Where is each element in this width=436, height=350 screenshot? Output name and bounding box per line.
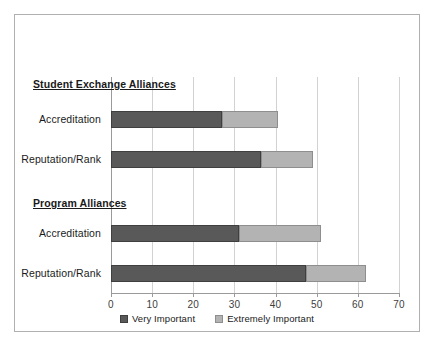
x-tick-label-0: 0 xyxy=(91,299,131,310)
gridline-50 xyxy=(317,77,318,293)
bar-segment-extremely-important[interactable] xyxy=(239,225,321,242)
bar-row[interactable] xyxy=(15,111,419,128)
x-tick-label-40: 40 xyxy=(256,299,296,310)
legend-swatch-icon-extremely-important xyxy=(215,315,223,323)
chart-frame: 010203040506070 Student Exchange Allianc… xyxy=(14,14,420,332)
bar-segment-very-important[interactable] xyxy=(111,151,261,168)
legend-item-extremely-important[interactable]: Extremely Important xyxy=(215,313,314,324)
gridline-40 xyxy=(276,77,277,293)
bar-segment-extremely-important[interactable] xyxy=(222,111,278,128)
legend-label-very-important: Very Important xyxy=(132,313,195,324)
tick-mark-10 xyxy=(152,293,153,297)
tick-mark-20 xyxy=(193,293,194,297)
bar-row[interactable] xyxy=(15,225,419,242)
x-axis-line xyxy=(111,293,399,294)
bar-segment-very-important[interactable] xyxy=(111,111,222,128)
bar-segment-very-important[interactable] xyxy=(111,265,306,282)
bar-segment-extremely-important[interactable] xyxy=(261,151,312,168)
x-tick-label-20: 20 xyxy=(173,299,213,310)
x-tick-label-50: 50 xyxy=(297,299,337,310)
gridline-20 xyxy=(193,77,194,293)
x-tick-label-60: 60 xyxy=(338,299,378,310)
tick-mark-70 xyxy=(399,293,400,297)
tick-mark-50 xyxy=(317,293,318,297)
legend-item-very-important[interactable]: Very Important xyxy=(120,313,195,324)
x-tick-label-10: 10 xyxy=(132,299,172,310)
tick-mark-40 xyxy=(276,293,277,297)
bar-segment-very-important[interactable] xyxy=(111,225,239,242)
legend-label-extremely-important: Extremely Important xyxy=(227,313,314,324)
group-header-program-alliances: Program Alliances xyxy=(33,197,127,209)
x-tick-label-30: 30 xyxy=(214,299,254,310)
gridline-30 xyxy=(234,77,235,293)
legend-swatch-icon-very-important xyxy=(120,315,128,323)
bar-row[interactable] xyxy=(15,151,419,168)
gridline-70 xyxy=(399,77,400,293)
gridline-10 xyxy=(152,77,153,293)
tick-mark-30 xyxy=(234,293,235,297)
tick-mark-60 xyxy=(358,293,359,297)
chart-legend: Very Important Extremely Important xyxy=(15,313,419,324)
gridline-0 xyxy=(111,77,112,293)
x-tick-label-70: 70 xyxy=(379,299,419,310)
tick-mark-0 xyxy=(111,293,112,297)
bar-segment-extremely-important[interactable] xyxy=(306,265,366,282)
gridline-60 xyxy=(358,77,359,293)
bar-row[interactable] xyxy=(15,265,419,282)
group-header-student-exchange-alliances: Student Exchange Alliances xyxy=(33,78,176,90)
